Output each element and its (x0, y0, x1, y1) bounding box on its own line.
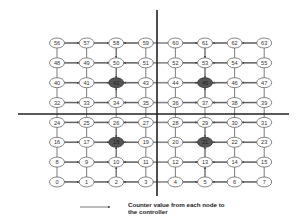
svg-text:54: 54 (231, 60, 237, 66)
svg-text:61: 61 (202, 40, 208, 46)
svg-text:43: 43 (143, 80, 149, 86)
node-7: 7 (257, 177, 272, 187)
controller-node-42: 42 (109, 78, 124, 88)
svg-text:22: 22 (231, 139, 237, 145)
svg-text:59: 59 (143, 40, 149, 46)
node-57: 57 (79, 38, 94, 48)
svg-text:44: 44 (172, 80, 178, 86)
node-29: 29 (198, 117, 213, 127)
svg-text:0: 0 (55, 179, 58, 185)
svg-text:49: 49 (83, 60, 89, 66)
svg-text:58: 58 (113, 40, 119, 46)
node-12: 12 (168, 157, 183, 167)
node-10: 10 (109, 157, 124, 167)
node-58: 58 (109, 38, 124, 48)
svg-text:34: 34 (113, 100, 119, 106)
svg-text:21: 21 (202, 139, 208, 145)
node-51: 51 (138, 58, 153, 68)
svg-text:48: 48 (54, 60, 60, 66)
svg-text:16: 16 (54, 139, 60, 145)
node-61: 61 (198, 38, 213, 48)
svg-text:37: 37 (202, 100, 208, 106)
node-62: 62 (227, 38, 242, 48)
svg-text:15: 15 (261, 159, 267, 165)
node-4: 4 (168, 177, 183, 187)
legend-label-line1: Counter value from each node to (128, 201, 298, 208)
node-33: 33 (79, 98, 94, 108)
svg-text:39: 39 (261, 100, 267, 106)
svg-text:38: 38 (231, 100, 237, 106)
node-2: 2 (109, 177, 124, 187)
node-31: 31 (257, 117, 272, 127)
svg-text:60: 60 (172, 40, 178, 46)
svg-text:28: 28 (172, 120, 178, 126)
node-40: 40 (50, 78, 65, 88)
svg-text:33: 33 (83, 100, 89, 106)
mesh-diagram: 5657585960616263484950515253545540414243… (0, 0, 305, 224)
svg-text:27: 27 (143, 120, 149, 126)
svg-text:13: 13 (202, 159, 208, 165)
svg-text:23: 23 (261, 139, 267, 145)
svg-text:45: 45 (202, 80, 208, 86)
node-59: 59 (138, 38, 153, 48)
legend-label-line2: the controller (128, 208, 298, 215)
node-53: 53 (198, 58, 213, 68)
node-49: 49 (79, 58, 94, 68)
node-9: 9 (79, 157, 94, 167)
svg-text:42: 42 (113, 80, 119, 86)
node-3: 3 (138, 177, 153, 187)
mesh-nodes: 5657585960616263484950515253545540414243… (50, 38, 272, 187)
node-32: 32 (50, 98, 65, 108)
svg-text:7: 7 (263, 179, 266, 185)
svg-text:12: 12 (172, 159, 178, 165)
node-47: 47 (257, 78, 272, 88)
node-35: 35 (138, 98, 153, 108)
svg-text:8: 8 (55, 159, 58, 165)
node-14: 14 (227, 157, 242, 167)
svg-text:53: 53 (202, 60, 208, 66)
svg-text:14: 14 (231, 159, 237, 165)
svg-text:40: 40 (54, 80, 60, 86)
node-5: 5 (198, 177, 213, 187)
svg-text:29: 29 (202, 120, 208, 126)
node-19: 19 (138, 137, 153, 147)
node-24: 24 (50, 117, 65, 127)
node-30: 30 (227, 117, 242, 127)
svg-text:47: 47 (261, 80, 267, 86)
node-38: 38 (227, 98, 242, 108)
svg-text:4: 4 (174, 179, 177, 185)
svg-text:57: 57 (83, 40, 89, 46)
node-22: 22 (227, 137, 242, 147)
node-0: 0 (50, 177, 65, 187)
node-55: 55 (257, 58, 272, 68)
node-56: 56 (50, 38, 65, 48)
node-34: 34 (109, 98, 124, 108)
node-63: 63 (257, 38, 272, 48)
svg-text:55: 55 (261, 60, 267, 66)
node-60: 60 (168, 38, 183, 48)
svg-text:20: 20 (172, 139, 178, 145)
svg-text:24: 24 (54, 120, 60, 126)
svg-text:5: 5 (203, 179, 206, 185)
node-48: 48 (50, 58, 65, 68)
node-20: 20 (168, 137, 183, 147)
node-27: 27 (138, 117, 153, 127)
svg-text:11: 11 (143, 159, 149, 165)
node-17: 17 (79, 137, 94, 147)
node-52: 52 (168, 58, 183, 68)
controller-node-45: 45 (198, 78, 213, 88)
node-28: 28 (168, 117, 183, 127)
svg-text:32: 32 (54, 100, 60, 106)
svg-text:46: 46 (231, 80, 237, 86)
svg-text:10: 10 (113, 159, 119, 165)
svg-text:52: 52 (172, 60, 178, 66)
controller-node-21: 21 (198, 137, 213, 147)
svg-text:3: 3 (144, 179, 147, 185)
node-41: 41 (79, 78, 94, 88)
svg-text:31: 31 (261, 120, 267, 126)
controller-node-18: 18 (109, 137, 124, 147)
svg-text:25: 25 (83, 120, 89, 126)
svg-text:63: 63 (261, 40, 267, 46)
node-16: 16 (50, 137, 65, 147)
svg-text:26: 26 (113, 120, 119, 126)
